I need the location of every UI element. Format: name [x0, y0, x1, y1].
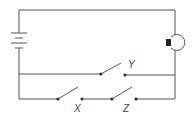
switch-z[interactable] [111, 87, 138, 101]
circuit-diagram: Y X Z [0, 0, 196, 119]
switch-z-label: Z [122, 103, 130, 114]
switch-x-label: X [73, 103, 81, 114]
switch-y[interactable] [100, 63, 127, 77]
switch-x[interactable] [57, 87, 84, 101]
light-bulb-icon [166, 34, 185, 50]
top-wire [19, 10, 175, 35]
switch-y-label: Y [128, 59, 136, 70]
battery-icon [11, 33, 27, 48]
